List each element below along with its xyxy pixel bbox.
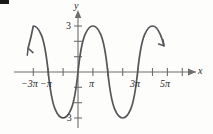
plot-canvas xyxy=(0,0,213,134)
xtick-label-pi: π xyxy=(89,79,94,89)
y-axis-label: y xyxy=(74,1,78,11)
ytick-label-neg3: −3 xyxy=(61,113,72,123)
left-end-arrowhead xyxy=(27,48,33,55)
trigonometric-graph-figure: −3π −π π 3π 5π 3 −3 x y xyxy=(0,0,213,134)
xtick-label-5pi: 5π xyxy=(160,79,170,89)
xtick-label-3pi: 3π xyxy=(130,79,140,89)
x-axis-label: x xyxy=(198,66,202,76)
xtick-label-negpi: −π xyxy=(40,79,52,89)
y-axis-arrowhead xyxy=(75,10,82,18)
x-axis-arrowhead xyxy=(188,69,196,76)
right-end-arrowhead xyxy=(159,40,164,46)
ytick-label-3: 3 xyxy=(66,21,71,31)
xtick-label-neg3pi: −3π xyxy=(21,79,38,89)
